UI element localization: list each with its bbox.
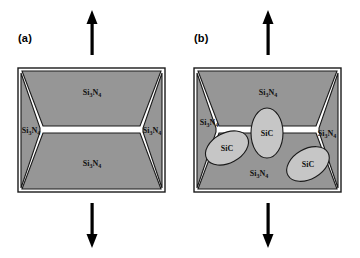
sic-left-label: SiC [221,144,234,153]
sic-right-label: SiC [302,160,315,169]
panel-a-diagram: Si3N4 Si3N4 Si3N4 Si3N4 [0,0,180,258]
grain-top [22,71,161,126]
up-arrow [263,10,274,55]
panel-b-diagram: Si3N4 Si3N4 Si3N4 Si3N4 SiC SiC SiC [180,0,360,258]
panel-b: (b) Si3N4 Si3N4 Si3N4 Si3N4 [180,0,360,258]
down-arrow [87,203,98,248]
up-arrow [87,10,98,55]
panel-a: (a) Si3N4 Si3N4 Si3N4 [0,0,180,258]
down-arrow [263,203,274,248]
sic-center-label: SiC [261,129,274,138]
